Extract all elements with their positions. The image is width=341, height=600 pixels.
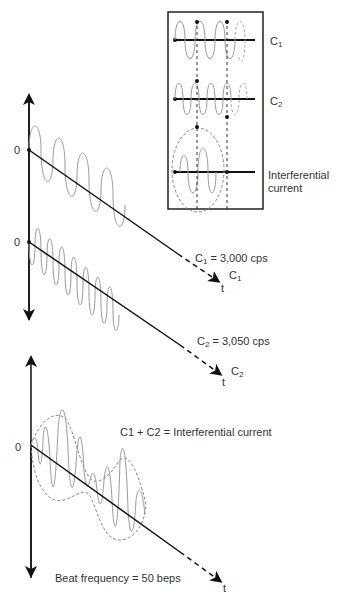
panel3-axes — [31, 358, 220, 581]
panel3-equation: C1 + C2 = Interferential current — [120, 426, 272, 439]
inset-label-c1: C1 — [270, 35, 282, 51]
diagram-canvas — [0, 0, 341, 600]
inset-label-interferential: Interferentialcurrent — [268, 169, 329, 195]
inset-label-c2: C2 — [270, 95, 282, 111]
panel3-origin-label: 0 — [15, 441, 21, 454]
panel2-axis-t: t — [222, 376, 225, 389]
panel1-axis-t: t — [221, 282, 224, 295]
panel2-curve-label: C2 — [231, 365, 243, 381]
inset-box — [168, 12, 263, 212]
panel2-equation: C2 = 3,050 cps — [197, 335, 270, 351]
panel1-origin-label: 0 — [14, 144, 20, 157]
panel2-origin-label: 0 — [14, 236, 20, 249]
panel3-beat-frequency: Beat frequency = 50 beps — [55, 572, 181, 585]
panel3-axis-t: t — [223, 582, 226, 595]
panel1-axes — [27, 96, 220, 374]
panel1-equation: C1 = 3,000 cps — [195, 252, 268, 268]
panel1-curve-label: C1 — [229, 269, 241, 285]
